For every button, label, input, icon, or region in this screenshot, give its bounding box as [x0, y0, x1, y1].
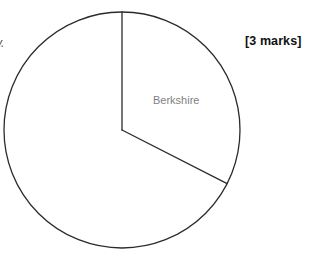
- marks-allocation-note: [3 marks]: [245, 35, 302, 48]
- cropped-text-fragment: y.: [0, 37, 6, 49]
- pie-chart-page: Berkshire [3 marks] y.: [0, 0, 315, 257]
- pie-slice-label-berkshire: Berkshire: [153, 95, 199, 106]
